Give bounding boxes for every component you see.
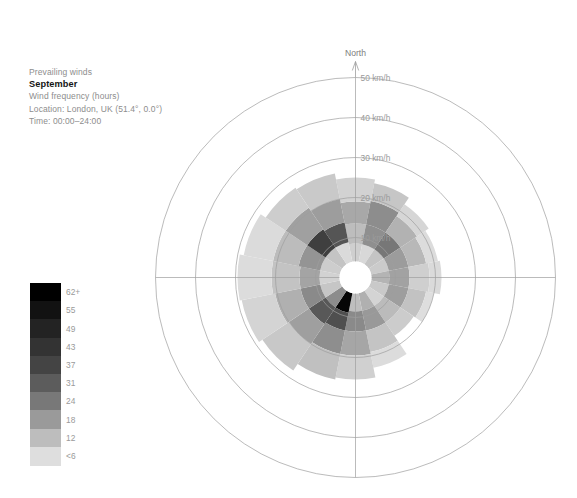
rose-grid-group [156,62,556,478]
radial-tick-label: 30 km/h [361,153,391,163]
radial-tick-label: 40 km/h [361,113,391,123]
north-arrow-icon [352,62,358,78]
direction-label-north: North [345,48,366,58]
wind-rose-plot: 10 km/h20 km/h30 km/h40 km/h50 km/hNorth [0,0,577,498]
radial-tick-label: 10 km/h [361,233,391,243]
radial-tick-label: 20 km/h [361,193,391,203]
wind-rose-figure: Prevailing winds September Wind frequenc… [0,0,577,498]
rose-sector-group [238,174,442,380]
rose-center-hole [340,262,372,294]
radial-tick-label: 50 km/h [361,73,391,83]
